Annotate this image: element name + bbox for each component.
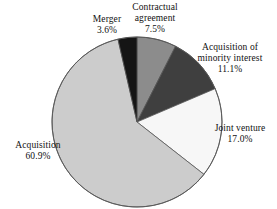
pie-label-acquisition-value: 60.9% — [2, 151, 74, 162]
pie-label-minority-interest: Acquisition of minority interest 11.1% — [183, 42, 277, 76]
pie-label-contractual-agreement-line2: agreement — [122, 13, 188, 24]
pie-label-joint-venture-name: Joint venture — [203, 123, 277, 134]
pie-label-contractual-agreement-value: 7.5% — [122, 24, 188, 35]
pie-label-acquisition: Acquisition 60.9% — [2, 140, 74, 162]
pie-chart-figure: Merger 3.6% Contractual agreement 7.5% A… — [0, 0, 277, 209]
pie-label-contractual-agreement: Contractual agreement 7.5% — [122, 2, 188, 36]
pie-label-joint-venture-value: 17.0% — [203, 134, 277, 145]
pie-label-minority-interest-line1: Acquisition of — [183, 42, 277, 53]
pie-label-minority-interest-value: 11.1% — [183, 64, 277, 75]
pie-label-minority-interest-line2: minority interest — [183, 53, 277, 64]
pie-label-contractual-agreement-line1: Contractual — [122, 2, 188, 13]
pie-label-acquisition-name: Acquisition — [2, 140, 74, 151]
pie-label-joint-venture: Joint venture 17.0% — [203, 123, 277, 145]
